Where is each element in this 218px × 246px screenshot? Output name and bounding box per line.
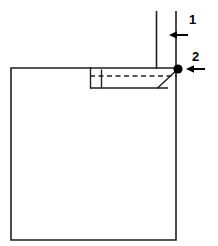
body-outline-rect	[11, 68, 176, 240]
callout-1-arrow	[169, 31, 188, 39]
callout-label-1: 1	[189, 13, 196, 26]
callout-label-2: 2	[192, 50, 199, 63]
diagram-svg	[0, 0, 218, 246]
node-dot-marker	[173, 64, 182, 73]
figure-canvas: 1 2	[0, 0, 218, 246]
callout-2-arrow	[186, 65, 205, 73]
